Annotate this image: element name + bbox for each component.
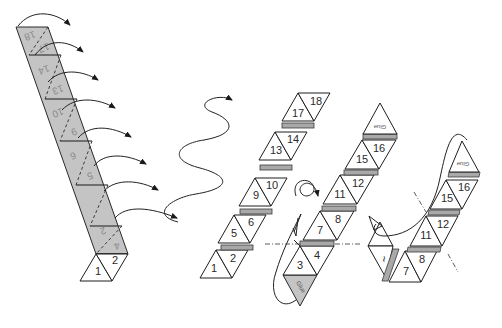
triangle-label: 18: [310, 95, 322, 107]
flexagon-diagram: 18 17 14 13 10 9 6 5 2 4 1 2: [0, 0, 502, 328]
triangle-label: 9: [253, 189, 259, 201]
triangle-label-rotated: ~: [378, 256, 390, 262]
wave-arrow-icon: [164, 97, 232, 222]
triangle-label: 13: [270, 144, 282, 156]
triangle-label: 16: [458, 181, 470, 193]
glue-label: Glue: [456, 161, 469, 167]
triangle-label: 15: [356, 153, 368, 165]
triangle-label: 7: [317, 224, 323, 236]
triangle-label: 12: [352, 177, 364, 189]
triangle-label: 8: [419, 253, 425, 265]
triangle-label: 15: [441, 192, 453, 204]
triangle-label: 10: [266, 179, 278, 191]
glue-label: Glue: [373, 124, 386, 130]
step1-gray-strip: 18 17 14 13 10 9 6 5 2 4: [16, 27, 128, 254]
triangle-label: 1: [211, 262, 217, 274]
triangle-label: 6: [248, 216, 254, 228]
fold-arrow-icon: [104, 182, 158, 191]
triangle-label: 16: [373, 142, 385, 154]
triangle-label: 4: [314, 249, 320, 261]
triangle-label: 2: [112, 254, 118, 266]
step4-wrapped-strip: Glue ~ 7 8 11 12 15 16: [368, 141, 480, 282]
triangle-label: 8: [335, 213, 341, 225]
triangle-label: 1: [95, 265, 101, 277]
triangle-label: 11: [420, 229, 431, 241]
triangle-label: 5: [231, 227, 237, 239]
triangle-label: 3: [297, 259, 303, 271]
fold-arrow-icon: [18, 14, 70, 26]
triangle-label: 2: [230, 252, 236, 264]
triangle-label: 11: [334, 188, 345, 200]
triangle-label: 12: [437, 218, 449, 230]
fold-arrow-icon: [115, 209, 177, 218]
step1-white-triangles: 1 2: [80, 254, 128, 281]
flip-over-arrow-icon: [295, 180, 318, 196]
triangle-label: 7: [403, 265, 409, 277]
triangle-label: 17: [292, 107, 304, 119]
fold-arrow-icon: [94, 156, 146, 166]
triangle-label: 14: [287, 133, 299, 145]
